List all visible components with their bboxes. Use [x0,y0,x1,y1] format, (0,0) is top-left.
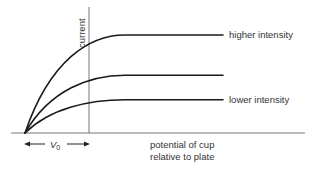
curve-lower-intensity [25,100,223,133]
v0-label-subscript: 0 [56,144,60,151]
label-lower-intensity: lower intensity [229,94,289,105]
v0-stopping-potential-arrow: V0 [24,139,90,151]
x-axis-label-line2: relative to plate [150,151,214,162]
curve-medium-intensity [25,75,223,133]
photoelectric-current-diagram: current higher intensity lower intensity… [0,0,315,171]
x-axis-label-line1: potential of cup [150,139,214,150]
curve-higher-intensity [25,35,223,133]
label-higher-intensity: higher intensity [229,29,293,40]
v0-label: V0 [50,139,60,151]
curves-group [25,35,223,133]
arrow-left-icon [24,142,30,147]
y-axis-label: current [76,18,87,48]
arrow-right-icon [84,142,90,147]
